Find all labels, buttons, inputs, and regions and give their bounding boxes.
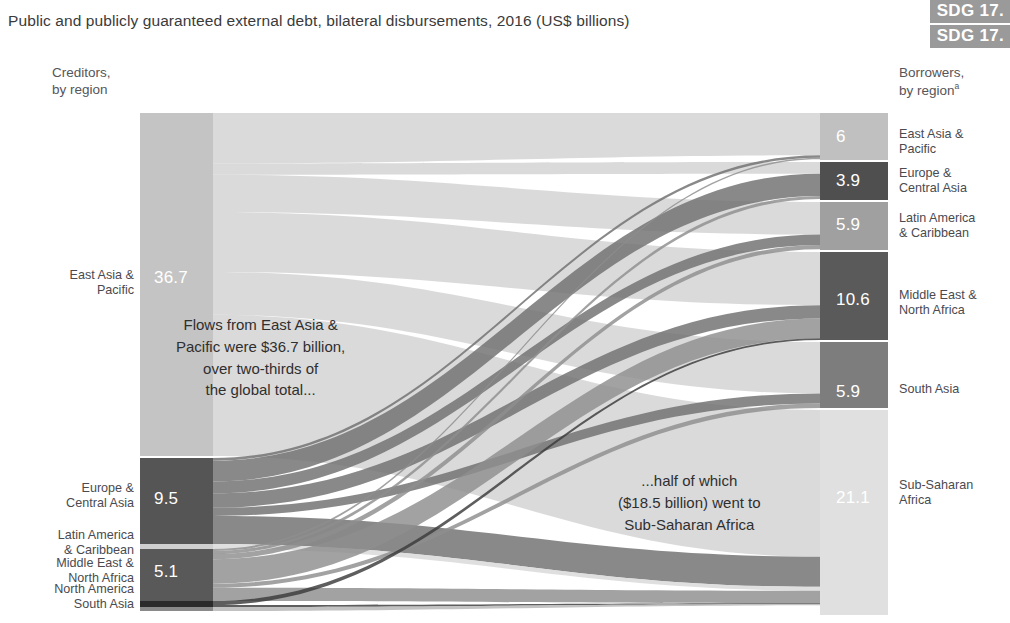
left-node-label-1-line-1: Central Asia — [66, 496, 134, 511]
sankey-plot-area: 36.79.55.163.95.910.65.921.1 East Asia &… — [0, 0, 1010, 623]
right-node-label-0: East Asia &Pacific — [899, 127, 963, 157]
left-node-label-2-line-0: Latin America — [58, 528, 134, 543]
annotation-left-line-2: over two-thirds of — [176, 358, 345, 380]
left-node-label-5-line-0: South Asia — [74, 597, 134, 612]
left-node-label-1: Europe &Central Asia — [66, 481, 134, 511]
right-node-label-1-line-0: Europe & — [899, 166, 967, 181]
annotation-left-line-1: Pacific were $36.7 billion, — [176, 336, 345, 358]
right-node-label-1: Europe &Central Asia — [899, 166, 967, 196]
left-node-label-5: South Asia — [74, 597, 134, 612]
right-node-label-3-line-1: North Africa — [899, 303, 977, 318]
left-node-1[interactable] — [140, 458, 213, 544]
annotation-right-line-1: ($18.5 billion) went to — [618, 492, 761, 514]
sankey-svg — [0, 0, 1010, 623]
left-node-2[interactable] — [140, 544, 213, 549]
right-node-label-5-line-1: Africa — [899, 493, 973, 508]
left-node-label-3-line-0: Middle East & — [56, 556, 134, 571]
right-node-4[interactable] — [820, 342, 888, 408]
right-node-1[interactable] — [820, 162, 888, 200]
left-node-label-4: North America — [54, 582, 134, 597]
sankey-figure: Public and publicly guaranteed external … — [0, 0, 1010, 623]
right-node-label-3: Middle East &North Africa — [899, 288, 977, 318]
annotation-right-line-2: Sub-Saharan Africa — [618, 514, 761, 536]
left-node-label-2: Latin America& Caribbean — [58, 528, 134, 558]
annotation-left: Flows from East Asia &Pacific were $36.7… — [176, 314, 345, 401]
right-node-label-0-line-1: Pacific — [899, 142, 963, 157]
annotation-right-line-0: ...half of which — [618, 470, 761, 492]
right-node-label-5-line-0: Sub-Saharan — [899, 478, 973, 493]
annotation-right: ...half of which($18.5 billion) went toS… — [618, 470, 761, 535]
right-node-0[interactable] — [820, 113, 888, 160]
annotation-left-line-0: Flows from East Asia & — [176, 314, 345, 336]
left-node-label-1-line-0: Europe & — [66, 481, 134, 496]
sankey-flow-1[interactable] — [213, 162, 820, 175]
right-node-label-1-line-1: Central Asia — [899, 181, 967, 196]
left-node-label-0: East Asia &Pacific — [70, 268, 134, 298]
right-node-label-4: South Asia — [899, 382, 959, 397]
left-node-label-4-line-0: North America — [54, 582, 134, 597]
annotation-left-line-3: the global total... — [176, 379, 345, 401]
right-node-3[interactable] — [820, 252, 888, 340]
right-node-2[interactable] — [820, 202, 888, 250]
right-node-label-5: Sub-SaharanAfrica — [899, 478, 973, 508]
left-node-label-0-line-1: Pacific — [70, 283, 134, 298]
sankey-flow-0[interactable] — [213, 113, 820, 163]
left-node-3[interactable] — [140, 549, 213, 601]
right-node-5[interactable] — [820, 410, 888, 615]
right-node-label-2-line-0: Latin America — [899, 211, 975, 226]
left-node-4[interactable] — [140, 601, 213, 607]
left-node-0[interactable] — [140, 113, 213, 456]
right-node-label-4-line-0: South Asia — [899, 382, 959, 397]
right-node-label-2: Latin America& Caribbean — [899, 211, 975, 241]
right-node-label-3-line-0: Middle East & — [899, 288, 977, 303]
left-node-5[interactable] — [140, 607, 213, 611]
right-node-label-0-line-0: East Asia & — [899, 127, 963, 142]
left-node-label-0-line-0: East Asia & — [70, 268, 134, 283]
right-node-label-2-line-1: & Caribbean — [899, 226, 975, 241]
